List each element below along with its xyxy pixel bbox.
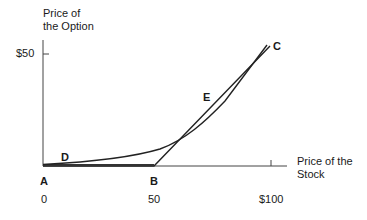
point-label-b: B bbox=[150, 175, 158, 188]
y-axis-label-line1: Price of bbox=[43, 7, 94, 20]
y-axis-label: Price of the Option bbox=[43, 7, 94, 33]
x-tick-label-0: 0 bbox=[41, 193, 47, 206]
x-tick-label-100: $100 bbox=[259, 193, 283, 206]
point-label-e: E bbox=[203, 91, 210, 104]
y-tick-label-50: $50 bbox=[16, 47, 34, 60]
chart-canvas bbox=[0, 0, 367, 220]
point-label-c: C bbox=[273, 40, 281, 53]
point-label-d: D bbox=[61, 151, 69, 164]
x-axis-label-line1: Price of the bbox=[297, 155, 353, 168]
x-axis-label: Price of the Stock bbox=[297, 155, 353, 181]
y-axis-label-line2: the Option bbox=[43, 20, 94, 33]
point-label-a: A bbox=[40, 175, 48, 188]
option-value-curve bbox=[43, 45, 267, 165]
x-axis-label-line2: Stock bbox=[297, 168, 353, 181]
x-tick-label-50: 50 bbox=[148, 193, 160, 206]
intrinsic-value-line bbox=[43, 46, 270, 166]
